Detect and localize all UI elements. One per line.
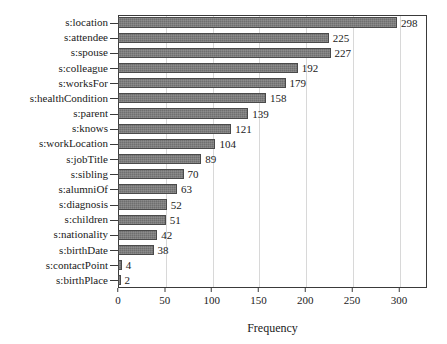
y-axis-tick-label: s:worksFor xyxy=(0,76,108,91)
y-axis-tick-text: s:location xyxy=(65,17,108,28)
bar xyxy=(118,78,286,88)
y-axis-tick-mark xyxy=(110,114,118,115)
y-axis-tick-label: s:workLocation xyxy=(0,136,108,151)
y-axis-tick-mark xyxy=(110,23,118,24)
bar-row: 139 xyxy=(118,106,427,121)
bar-value-label: 89 xyxy=(205,154,216,165)
bar xyxy=(118,184,177,194)
y-axis-tick-label: s:healthCondition xyxy=(0,91,108,106)
bar-value-label: 38 xyxy=(158,245,169,256)
y-axis-tick-label: s:attendee xyxy=(0,30,108,45)
bar-row: 51 xyxy=(118,212,427,227)
y-axis-tick-mark xyxy=(110,159,118,160)
bar xyxy=(118,124,231,134)
x-axis-tick-mark xyxy=(352,288,353,292)
bar-chart-figure: s:locations:attendees:spouses:colleagues… xyxy=(0,0,447,344)
y-axis-tick-text: s:sibling xyxy=(71,169,108,180)
y-axis-tick-text: s:children xyxy=(65,214,108,225)
y-axis-category-labels: s:locations:attendees:spouses:colleagues… xyxy=(0,15,108,288)
bar-row: 227 xyxy=(118,45,427,60)
bar xyxy=(118,108,248,118)
bar-value-label: 179 xyxy=(290,78,307,89)
y-axis-tick-text: s:workLocation xyxy=(39,138,108,149)
y-axis-tick-mark xyxy=(110,235,118,236)
y-axis-tick-text: s:attendee xyxy=(64,32,108,43)
y-axis-tick-label: s:colleague xyxy=(0,61,108,76)
y-axis-tick-mark xyxy=(110,189,118,190)
x-axis-tick: 150 xyxy=(250,288,267,306)
bar xyxy=(118,260,122,270)
bar xyxy=(118,48,331,58)
x-axis-tick-text: 100 xyxy=(203,295,220,306)
x-axis-tick-text: 0 xyxy=(115,295,121,306)
y-axis-tick-text: s:spouse xyxy=(71,47,108,58)
x-axis-title: Frequency xyxy=(118,322,427,334)
y-axis-tick-label: s:children xyxy=(0,212,108,227)
y-axis-tick-text: s:colleague xyxy=(59,63,108,74)
y-axis-tick-mark xyxy=(110,205,118,206)
y-axis-tick-text: s:contactPoint xyxy=(46,260,108,271)
y-axis-tick-mark xyxy=(110,174,118,175)
bar-value-label: 51 xyxy=(170,214,181,225)
bar-value-label: 158 xyxy=(270,93,287,104)
bar-value-label: 225 xyxy=(333,32,350,43)
x-axis-tick: 200 xyxy=(297,288,314,306)
y-axis-tick-mark xyxy=(110,98,118,99)
bar-value-label: 139 xyxy=(252,108,269,119)
y-axis-tick-label: s:location xyxy=(0,15,108,30)
y-axis-tick-text: s:nationality xyxy=(54,229,108,240)
y-axis-tick-label: s:diagnosis xyxy=(0,197,108,212)
y-axis-tick-text: s:parent xyxy=(73,108,108,119)
bar-row: 121 xyxy=(118,121,427,136)
bar-row: 89 xyxy=(118,152,427,167)
x-axis-tick-mark xyxy=(164,288,165,292)
x-axis-tick-text: 300 xyxy=(391,295,408,306)
bar xyxy=(118,17,397,27)
bar-value-label: 227 xyxy=(335,47,352,58)
bar-row: 158 xyxy=(118,91,427,106)
x-axis-tick: 100 xyxy=(203,288,220,306)
y-axis-tick-label: s:sibling xyxy=(0,167,108,182)
y-axis-tick-label: s:contactPoint xyxy=(0,258,108,273)
bar-value-label: 63 xyxy=(181,184,192,195)
bar xyxy=(118,169,184,179)
y-axis-tick-label: s:parent xyxy=(0,106,108,121)
x-axis-tick: 50 xyxy=(159,288,170,306)
bar xyxy=(118,215,166,225)
y-axis-tick-mark xyxy=(110,265,118,266)
y-axis-tick-mark xyxy=(110,53,118,54)
x-axis-tick-mark xyxy=(211,288,212,292)
bar-value-label: 121 xyxy=(235,123,252,134)
bar-row: 42 xyxy=(118,227,427,242)
bar xyxy=(118,154,201,164)
y-axis-tick-mark xyxy=(110,129,118,130)
x-axis-tick: 250 xyxy=(344,288,361,306)
x-axis-tick-text: 200 xyxy=(297,295,314,306)
y-axis-tick-text: s:knows xyxy=(72,123,108,134)
y-axis-tick-mark xyxy=(110,68,118,69)
bar-value-label: 104 xyxy=(219,138,236,149)
x-axis-tick-mark xyxy=(118,288,119,292)
bar xyxy=(118,245,154,255)
y-axis-tick-mark xyxy=(110,220,118,221)
bar-row: 63 xyxy=(118,182,427,197)
y-axis-tick-mark xyxy=(110,83,118,84)
bar xyxy=(118,230,157,240)
x-axis-tick-mark xyxy=(258,288,259,292)
bar-row: 225 xyxy=(118,30,427,45)
x-axis-tick: 300 xyxy=(391,288,408,306)
bar xyxy=(118,199,167,209)
bar-row: 4 xyxy=(118,258,427,273)
y-axis-tick-text: s:diagnosis xyxy=(59,199,108,210)
x-axis-tick-text: 150 xyxy=(250,295,267,306)
y-axis-tick-text: s:birthPlace xyxy=(56,275,108,286)
bar-row: 2 xyxy=(118,273,427,288)
y-axis-tick-mark xyxy=(110,280,118,281)
x-axis-tick-text: 50 xyxy=(159,295,170,306)
bar-value-label: 70 xyxy=(188,169,199,180)
y-axis-tick-label: s:spouse xyxy=(0,45,108,60)
bar-value-label: 4 xyxy=(126,260,132,271)
y-axis-tick-text: s:alumniOf xyxy=(59,184,109,195)
bar-row: 104 xyxy=(118,136,427,151)
y-axis-tick-label: s:alumniOf xyxy=(0,182,108,197)
